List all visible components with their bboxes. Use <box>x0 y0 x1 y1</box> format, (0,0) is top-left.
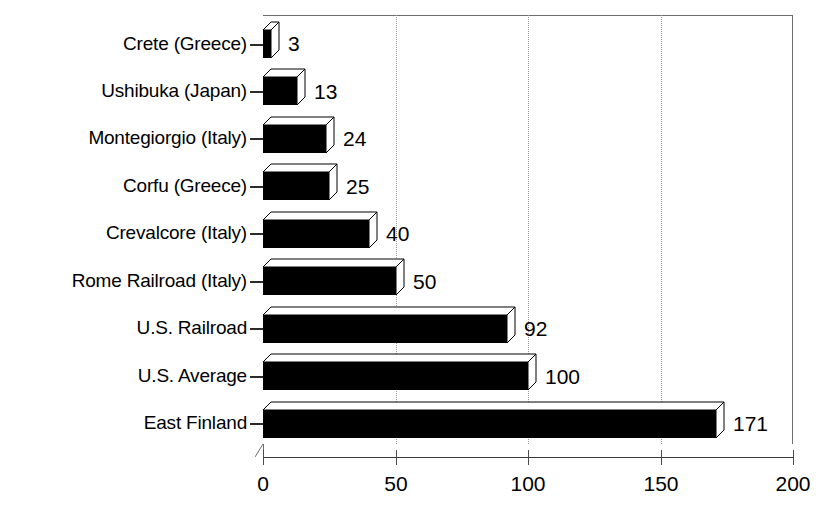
bar-us-average <box>263 354 553 394</box>
bar-value-label: 25 <box>346 176 369 197</box>
bar-value-label: 13 <box>314 81 337 102</box>
bar-value-label: 50 <box>413 271 436 292</box>
bar-value-label: 40 <box>386 223 409 244</box>
y-axis-tick <box>250 91 263 93</box>
bar-chart: Crete (Greece) Ushibuka (Japan) Montegio… <box>0 0 825 519</box>
category-label: U.S. Average <box>138 366 247 385</box>
x-axis-tick <box>793 450 794 465</box>
y-axis-tick <box>250 186 263 188</box>
x-axis-tick <box>661 450 662 465</box>
bar-us-railroad <box>263 307 533 347</box>
category-label: East Finland <box>144 413 247 432</box>
category-label: Crevalcore (Italy) <box>106 223 247 242</box>
y-axis-tick <box>250 281 263 283</box>
x-axis-tick <box>263 450 264 465</box>
category-label: Montegiorgio (Italy) <box>88 128 247 147</box>
category-label: Crete (Greece) <box>123 34 247 53</box>
gridline-150 <box>661 15 662 444</box>
bar-value-label: 3 <box>288 33 300 54</box>
bar-value-label: 100 <box>545 366 580 387</box>
y-axis-tick <box>250 328 263 330</box>
y-axis-tick <box>250 423 263 425</box>
y-axis-tick <box>250 44 263 46</box>
bar-corfu <box>263 164 353 204</box>
bar-rome-railroad <box>263 259 423 299</box>
bar-value-label: 92 <box>524 318 547 339</box>
bar-crevalcore <box>263 212 393 252</box>
category-label: Corfu (Greece) <box>123 176 247 195</box>
bar-montegiorgio <box>263 117 353 157</box>
category-label: Ushibuka (Japan) <box>101 81 247 100</box>
x-axis-tick-label: 150 <box>643 473 678 494</box>
category-label: Rome Railroad (Italy) <box>72 271 247 290</box>
y-axis-tick <box>250 376 263 378</box>
x-axis-tick-label: 50 <box>384 473 407 494</box>
y-axis-tick <box>250 138 263 140</box>
bar-value-label: 24 <box>343 128 366 149</box>
category-label: U.S. Railroad <box>137 318 247 337</box>
y-axis-tick <box>250 233 263 235</box>
x-axis-tick-label: 100 <box>510 473 545 494</box>
bar-east-finland <box>263 402 733 442</box>
x-axis-tick-label: 200 <box>775 473 810 494</box>
x-axis-tick <box>396 450 397 465</box>
bar-value-label: 171 <box>733 413 768 434</box>
x-axis-tick-label: 0 <box>257 473 269 494</box>
x-axis-tick <box>528 450 529 465</box>
